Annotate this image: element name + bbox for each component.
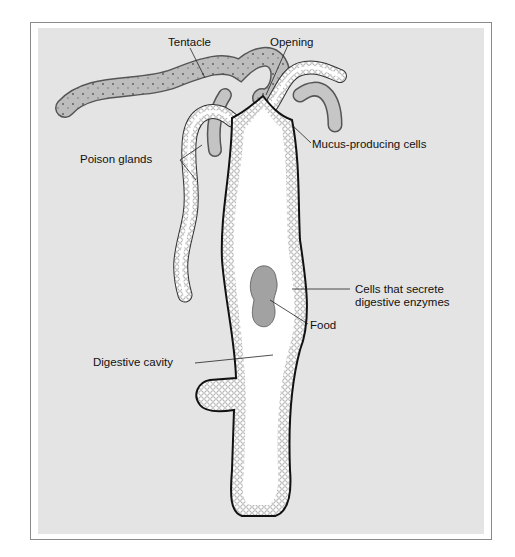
label-poison-glands: Poison glands <box>80 153 152 166</box>
label-enzyme-cells-line1: Cells that secrete <box>355 283 444 296</box>
label-digestive-cavity: Digestive cavity <box>93 356 173 369</box>
label-food: Food <box>310 319 336 332</box>
hydra-body <box>196 96 307 516</box>
label-tentacle: Tentacle <box>168 36 211 49</box>
food-mass <box>250 266 277 327</box>
hydra-illustration <box>0 0 515 557</box>
label-opening: Opening <box>270 36 313 49</box>
label-mucus-producing-cells: Mucus-producing cells <box>312 138 426 151</box>
label-enzyme-cells-line2: digestive enzymes <box>355 296 450 309</box>
